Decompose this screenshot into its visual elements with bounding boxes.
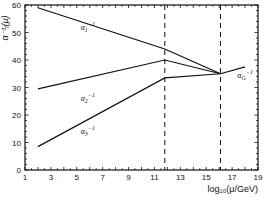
x-tick-label: 19 xyxy=(254,173,263,182)
coupling-unification-chart: 1357911131517190102030405060 α1−1α2−1α3−… xyxy=(0,0,274,197)
axis-ticks: 1357911131517190102030405060 xyxy=(12,1,263,182)
y-tick-label: 10 xyxy=(12,139,21,148)
y-axis-label: α⁻¹ᵢ(μ) xyxy=(0,15,10,40)
series-line xyxy=(38,60,221,89)
x-tick-label: 13 xyxy=(176,173,185,182)
y-tick-label: 40 xyxy=(12,56,21,65)
y-tick-label: 50 xyxy=(12,29,21,38)
series-annotations: α1−1α2−1α3−1αG−1 xyxy=(81,21,253,138)
x-tick-label: 9 xyxy=(126,173,131,182)
y-tick-label: 60 xyxy=(12,1,21,10)
y-tick-label: 20 xyxy=(12,111,21,120)
series-line xyxy=(38,8,221,74)
series-label: α2−1 xyxy=(81,92,95,104)
x-tick-label: 5 xyxy=(75,173,80,182)
x-tick-label: 1 xyxy=(23,173,28,182)
dashed-reference-lines xyxy=(165,5,221,170)
x-axis-label: log₁₀(μ/GeV) xyxy=(208,184,258,194)
x-tick-label: 7 xyxy=(100,173,105,182)
series-line xyxy=(38,74,221,147)
y-tick-label: 30 xyxy=(12,84,21,93)
x-tick-label: 11 xyxy=(150,173,159,182)
x-tick-label: 3 xyxy=(49,173,54,182)
plot-frame xyxy=(25,5,258,170)
series-label: α1−1 xyxy=(81,21,95,33)
x-tick-label: 15 xyxy=(202,173,211,182)
x-tick-label: 17 xyxy=(228,173,237,182)
y-tick-label: 0 xyxy=(17,166,22,175)
series-label: αG−1 xyxy=(237,69,253,81)
series-label: α3−1 xyxy=(81,125,95,137)
series-lines xyxy=(38,8,245,147)
plot-border xyxy=(25,5,258,170)
